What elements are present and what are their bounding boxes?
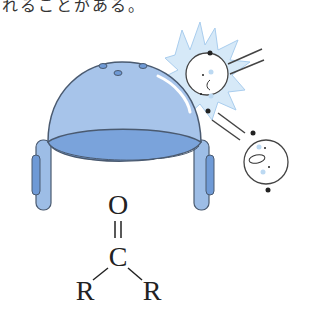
receptor-diagram: O C R R bbox=[0, 0, 310, 319]
carbon-atom: C bbox=[109, 241, 128, 272]
carbonyl-structure: O C R R bbox=[76, 189, 162, 306]
bond-left bbox=[93, 268, 108, 280]
bond-right bbox=[128, 268, 142, 280]
odorant-molecule-rebound bbox=[244, 131, 288, 193]
oxygen-atom: O bbox=[108, 189, 128, 220]
r-group-left: R bbox=[76, 275, 95, 306]
r-group-right: R bbox=[143, 275, 162, 306]
